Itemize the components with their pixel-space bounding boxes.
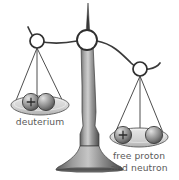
right-pan-label-line2: and neutron bbox=[110, 162, 167, 173]
left-hanger-ring bbox=[30, 34, 44, 48]
right-particle-neutron bbox=[145, 126, 162, 143]
left-pan-assembly: deuterium bbox=[11, 34, 69, 127]
left-particle-neutron bbox=[37, 93, 54, 110]
left-pan-label: deuterium bbox=[16, 116, 65, 127]
right-particle-proton bbox=[114, 126, 131, 143]
right-hanger-ring bbox=[133, 62, 147, 76]
right-pan-assembly: free proton and neutron bbox=[110, 62, 168, 173]
scale-column bbox=[80, 44, 99, 146]
right-pan-label-line1: free proton bbox=[113, 150, 165, 161]
balance-beam-right-arm bbox=[97, 41, 160, 69]
pivot-ring bbox=[77, 30, 97, 50]
balance-scale-figure: deuterium free proton and neutron bbox=[0, 0, 179, 180]
balance-scale-illustration: deuterium free proton and neutron bbox=[0, 0, 179, 180]
